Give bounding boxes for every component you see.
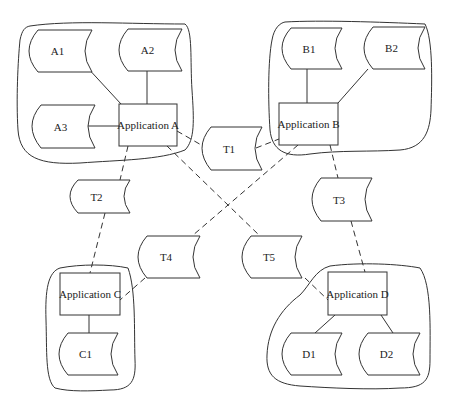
store-b1-label: B1 <box>283 28 335 69</box>
store-t4-label: T4 <box>139 236 193 278</box>
application-b-label: Application B <box>279 103 338 145</box>
link-t1-appb <box>256 139 279 148</box>
store-t5-label: T5 <box>243 236 295 278</box>
store-c1-label: C1 <box>60 333 111 375</box>
store-t3-label: T3 <box>313 178 365 221</box>
application-a-label: Application A <box>119 104 177 146</box>
store-d1-label: D1 <box>283 333 335 375</box>
link-appa-t2 <box>120 146 128 180</box>
store-t1-label: T1 <box>203 127 255 170</box>
store-a1-label: A1 <box>30 30 85 72</box>
link-t2-appc <box>90 213 105 273</box>
link-t5-appd <box>305 278 328 300</box>
link-appd-d1 <box>315 315 335 333</box>
architecture-diagram: Application A Application B Application … <box>0 0 452 407</box>
store-b2-label: B2 <box>365 27 418 69</box>
application-c-label: Application C <box>60 273 120 315</box>
link-b2-appb <box>338 69 368 103</box>
application-d-label: Application D <box>328 272 387 315</box>
link-appa-t1 <box>177 131 203 146</box>
store-d2-label: D2 <box>360 333 413 375</box>
store-a2-label: A2 <box>120 29 175 71</box>
store-t2-label: T2 <box>70 180 123 213</box>
link-appd-d2 <box>381 315 393 333</box>
link-appb-t3 <box>330 145 338 178</box>
store-a3-label: A3 <box>33 105 88 148</box>
